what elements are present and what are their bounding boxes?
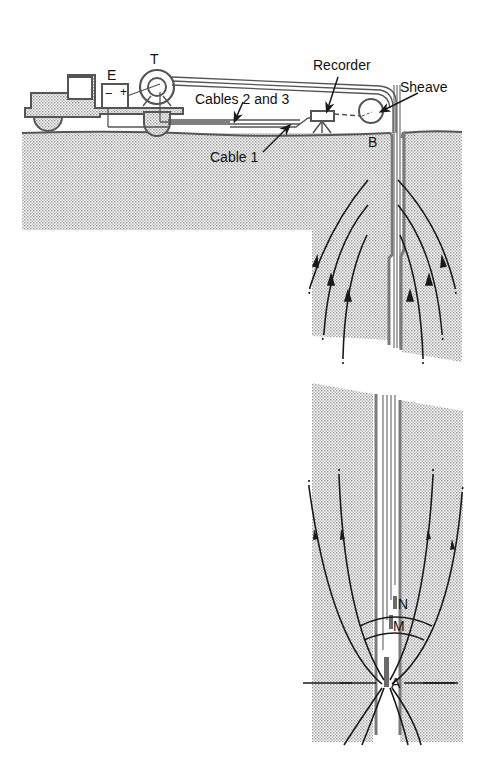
recorder bbox=[311, 111, 360, 133]
label-recorder: Recorder bbox=[313, 58, 371, 72]
label-drum-T: T bbox=[150, 52, 159, 66]
label-battery-E: E bbox=[107, 68, 116, 82]
label-A: A bbox=[391, 676, 400, 690]
electrode-N bbox=[393, 596, 397, 609]
label-battery-minus: − bbox=[105, 87, 113, 100]
electrode-A bbox=[384, 657, 389, 687]
label-sheave: Sheave bbox=[400, 80, 447, 94]
well-logging-diagram bbox=[0, 0, 489, 763]
sheave bbox=[359, 99, 383, 123]
label-cable-1: Cable 1 bbox=[210, 150, 258, 164]
label-B: B bbox=[368, 135, 377, 149]
label-battery-plus: + bbox=[120, 86, 127, 98]
label-cables-2-and-3: Cables 2 and 3 bbox=[195, 92, 289, 106]
electrodes bbox=[384, 596, 397, 687]
label-N: N bbox=[398, 597, 408, 611]
ground-surface bbox=[22, 131, 462, 362]
label-M: M bbox=[393, 619, 405, 633]
